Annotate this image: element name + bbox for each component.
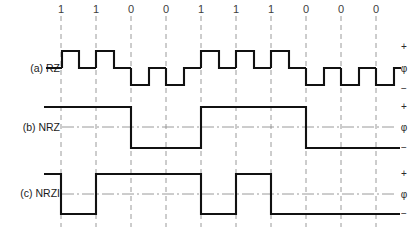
bit-label: 1 bbox=[268, 3, 274, 15]
rz-waveform bbox=[46, 51, 401, 85]
bit-label: 0 bbox=[303, 3, 309, 15]
bit-label: 0 bbox=[373, 3, 379, 15]
bit-label: 1 bbox=[58, 3, 64, 15]
row-label-nrz: (b) NRZ bbox=[23, 121, 61, 133]
level-label-zero-rz: φ bbox=[401, 63, 408, 74]
level-label-zero-nrz: φ bbox=[401, 122, 408, 133]
bit-grid-lines bbox=[61, 16, 376, 227]
figure-canvas: 1 1 0 0 1 1 1 0 0 0 (a) RZ + φ − (b) NRZ… bbox=[0, 0, 418, 227]
bit-label: 1 bbox=[198, 3, 204, 15]
row-label-nrzi: (c) NRZI bbox=[20, 187, 60, 199]
waveform-row-nrz: (b) NRZ + φ − bbox=[23, 101, 408, 153]
bit-label: 0 bbox=[163, 3, 169, 15]
nrz-waveform bbox=[44, 107, 400, 148]
waveform-row-nrzi: (c) NRZI + φ − bbox=[20, 168, 407, 219]
level-label-plus-nrz: + bbox=[401, 101, 407, 112]
level-label-minus-nrz: − bbox=[401, 142, 407, 153]
line-coding-figure: 1 1 0 0 1 1 1 0 0 0 (a) RZ + φ − (b) NRZ… bbox=[0, 0, 418, 227]
level-label-minus-rz: − bbox=[401, 83, 407, 94]
bit-stream-labels: 1 1 0 0 1 1 1 0 0 0 bbox=[58, 3, 379, 15]
level-label-plus-nrzi: + bbox=[401, 168, 407, 179]
level-label-zero-nrzi: φ bbox=[401, 189, 408, 200]
bit-label: 1 bbox=[233, 3, 239, 15]
bit-label: 0 bbox=[128, 3, 134, 15]
waveform-row-rz: (a) RZ + φ − bbox=[30, 41, 408, 94]
level-label-minus-nrzi: − bbox=[401, 208, 407, 219]
bit-label: 1 bbox=[93, 3, 99, 15]
level-label-plus-rz: + bbox=[401, 41, 407, 52]
bit-label: 0 bbox=[338, 3, 344, 15]
